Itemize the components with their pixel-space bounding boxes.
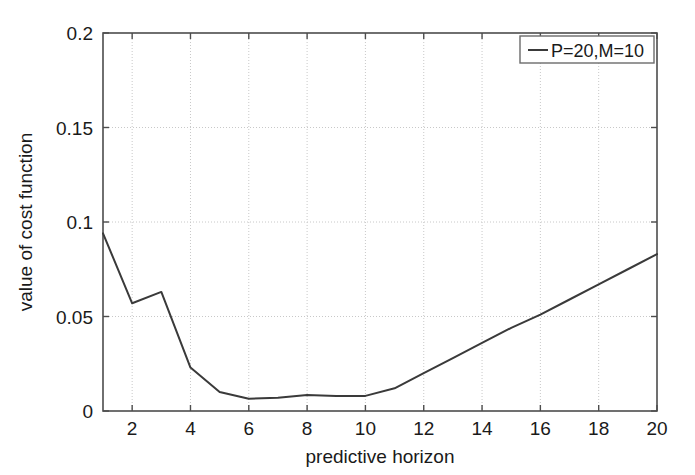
y-tick-label: 0.05 <box>56 307 93 328</box>
x-tick-label: 2 <box>127 418 138 439</box>
x-tick-label: 16 <box>530 418 551 439</box>
cost-function-line-chart: 2468101214161820 00.050.10.150.2 predict… <box>0 0 695 475</box>
y-tick-label: 0 <box>82 401 93 422</box>
x-tick-label: 6 <box>244 418 255 439</box>
chart-legend[interactable]: P=20,M=10 <box>520 36 654 63</box>
x-tick-label: 20 <box>646 418 667 439</box>
y-axis-tick-labels: 00.050.10.150.2 <box>56 23 93 422</box>
y-tick-label: 0.1 <box>67 212 93 233</box>
y-tick-label: 0.2 <box>67 23 93 44</box>
x-axis-title: predictive horizon <box>306 446 455 467</box>
x-tick-label: 14 <box>471 418 493 439</box>
x-tick-label: 12 <box>413 418 434 439</box>
y-axis-title: value of cost function <box>15 133 36 312</box>
x-tick-label: 18 <box>588 418 609 439</box>
x-tick-label: 4 <box>185 418 196 439</box>
x-tick-label: 10 <box>355 418 376 439</box>
legend-entry-label: P=20,M=10 <box>551 41 644 61</box>
y-tick-label: 0.15 <box>56 118 93 139</box>
x-tick-label: 8 <box>302 418 313 439</box>
figure-container: 2468101214161820 00.050.10.150.2 predict… <box>0 0 695 475</box>
x-axis-tick-labels: 2468101214161820 <box>127 418 668 439</box>
